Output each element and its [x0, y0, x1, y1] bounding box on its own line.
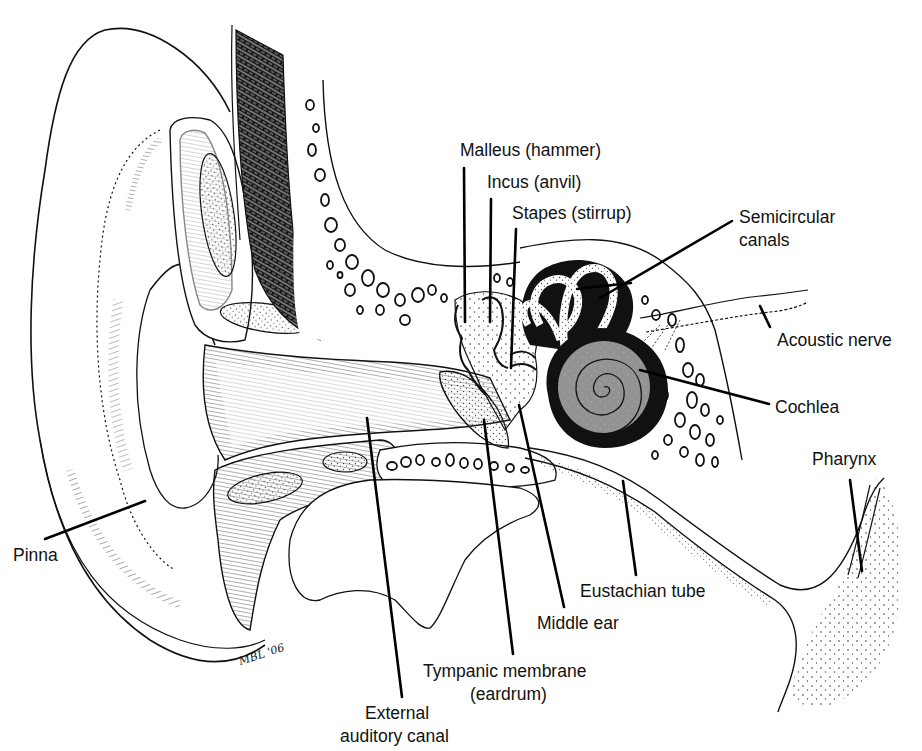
malleus-leader — [464, 168, 465, 322]
label-acoustic-nerve: Acoustic nerve — [777, 330, 892, 351]
label-external-auditory-canal-line1: External — [365, 703, 429, 724]
label-malleus: Malleus (hammer) — [460, 140, 601, 161]
incus-leader — [490, 199, 491, 322]
label-stapes: Stapes (stirrup) — [512, 203, 632, 224]
acoustic-leader — [760, 306, 770, 327]
label-tympanic-membrane-line1: Tympanic membrane — [423, 661, 586, 682]
label-external-auditory-canal-line2: auditory canal — [340, 726, 449, 747]
label-cochlea: Cochlea — [775, 397, 839, 418]
eustachian-leader — [623, 481, 636, 575]
ear-anatomy-drawing — [0, 0, 922, 751]
label-pinna: Pinna — [13, 545, 58, 566]
label-pharynx: Pharynx — [812, 449, 876, 470]
label-semicircular-canals-line2: canals — [739, 230, 790, 251]
label-eustachian-tube: Eustachian tube — [580, 581, 706, 602]
label-tympanic-membrane-line2: (eardrum) — [470, 684, 547, 705]
label-semicircular-canals-line1: Semicircular — [739, 207, 835, 228]
label-incus: Incus (anvil) — [487, 172, 581, 193]
label-middle-ear: Middle ear — [537, 613, 619, 634]
pharynx-tissue — [790, 478, 901, 707]
